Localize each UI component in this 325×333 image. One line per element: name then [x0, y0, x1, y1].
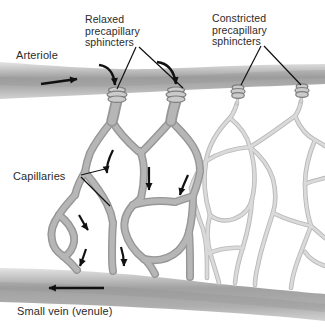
constricted-sphincter-1 [231, 85, 245, 98]
capillary-flow-arrow-5 [80, 249, 86, 266]
label-relaxed-sphincters: Relaxed precapillary sphincters [85, 14, 140, 49]
figure-canvas: Arteriole Relaxed precapillary sphincter… [0, 0, 325, 333]
label-capillaries: Capillaries [13, 171, 65, 183]
relaxed-stem-outline [112, 100, 176, 121]
capillary-flow-arrow-3 [180, 175, 188, 195]
capillary-flow-arrow-1 [107, 150, 113, 173]
label-small-vein: Small vein (venule) [17, 306, 112, 318]
relaxed-sphincter-2 [166, 87, 186, 102]
capillary-flow-arrow-4 [79, 215, 88, 230]
constricted-stem [237, 95, 302, 104]
constricted-sphincter-2 [295, 84, 309, 97]
constricted-stem-outline [237, 95, 302, 104]
arteriole-vessel [0, 62, 325, 99]
relaxed-sphincter-1 [107, 87, 127, 102]
capillary-flow-arrow-6 [121, 247, 124, 266]
label-arteriole: Arteriole [16, 50, 58, 62]
label-constricted-sphincters: Constricted precapillary sphincters [212, 13, 267, 48]
